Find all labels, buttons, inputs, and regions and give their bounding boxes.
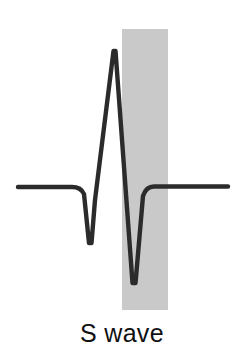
s-wave-waveform-figure [0,0,244,356]
figure-root: S wave [0,0,244,356]
s-wave-highlight-band [122,29,168,310]
caption-label: S wave [0,318,244,348]
